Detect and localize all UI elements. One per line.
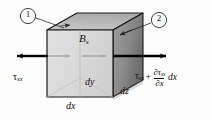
fraction-numerator: ∂τxx bbox=[152, 68, 166, 78]
body-force-symbol: B bbox=[79, 32, 86, 44]
stress-right-base: τxx bbox=[135, 72, 144, 82]
dimension-dz-label: dz bbox=[120, 86, 129, 96]
fraction-numerator-subscript: xx bbox=[161, 71, 166, 77]
body-force-label: Bx bbox=[79, 33, 89, 45]
stress-element-figure: 1 2 Bx τxx τxx + ∂τxx ∂x dx dy dz dx bbox=[0, 0, 211, 119]
stress-right-trailing: dx bbox=[168, 73, 177, 83]
stress-right-plus: + bbox=[146, 73, 151, 83]
dimension-dx-label: dx bbox=[66, 101, 75, 111]
fraction-numerator-partial: ∂τ bbox=[153, 67, 160, 77]
body-force-subscript: x bbox=[86, 38, 89, 45]
partial-derivative-fraction: ∂τxx ∂x bbox=[152, 68, 166, 87]
stress-left-label: τxx bbox=[13, 72, 23, 83]
stress-right-label: τxx + ∂τxx ∂x dx bbox=[135, 68, 177, 87]
stress-right-base-subscript: xx bbox=[139, 76, 144, 82]
stress-left-subscript: xx bbox=[17, 75, 23, 82]
callout-1-label: 1 bbox=[22, 10, 34, 19]
fraction-denominator: ∂x bbox=[154, 78, 164, 88]
callout-2-label: 2 bbox=[153, 14, 165, 23]
dimension-dy-label: dy bbox=[85, 77, 94, 87]
